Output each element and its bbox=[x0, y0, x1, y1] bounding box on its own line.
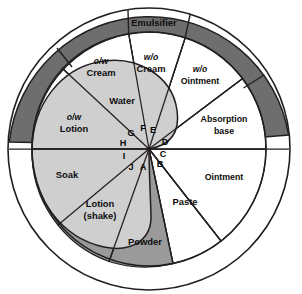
wheel-diagram-svg: Emulsifier o/w Cream w/o Cream w/o Ointm… bbox=[0, 0, 302, 294]
label-wo-ointment-prefix: w/o bbox=[193, 64, 207, 74]
label-ointment: Ointment bbox=[205, 172, 244, 182]
label-wo-ointment: Ointment bbox=[181, 76, 220, 86]
band-divider-left bbox=[128, 10, 129, 34]
label-wo-cream: Cream bbox=[136, 63, 165, 74]
label-water: Water bbox=[109, 95, 135, 106]
label-ow-cream: Cream bbox=[86, 67, 115, 78]
key-letter-I: I bbox=[123, 151, 126, 161]
label-powder: Powder bbox=[128, 236, 162, 247]
label-wo-cream-prefix: w/o bbox=[144, 52, 158, 62]
dermatologic-vehicle-wheel-figure: Emulsifier o/w Cream w/o Cream w/o Ointm… bbox=[0, 0, 302, 294]
label-ow-cream-prefix: o/w bbox=[94, 56, 110, 66]
key-letter-F: F bbox=[140, 123, 146, 133]
key-letter-A: A bbox=[140, 162, 147, 172]
label-absorption-base-line1: Absorption bbox=[201, 114, 248, 124]
key-letter-B: B bbox=[157, 159, 164, 169]
label-ow-lotion: Lotion bbox=[60, 123, 89, 134]
label-emulsifier: Emulsifier bbox=[131, 17, 177, 28]
label-soak: Soak bbox=[56, 169, 79, 180]
key-letter-G: G bbox=[127, 128, 134, 138]
key-letter-D: D bbox=[162, 137, 169, 147]
key-letter-E: E bbox=[150, 125, 156, 135]
label-lotion-shake-line2: (shake) bbox=[84, 210, 117, 221]
key-letter-C: C bbox=[160, 149, 167, 159]
key-letter-H: H bbox=[120, 138, 127, 148]
label-absorption-base-line2: base bbox=[214, 126, 234, 136]
label-paste: Paste bbox=[172, 196, 197, 207]
label-lotion-shake-line1: Lotion bbox=[86, 198, 115, 209]
label-ow-lotion-prefix: o/w bbox=[67, 112, 83, 122]
key-letter-J: J bbox=[128, 162, 133, 172]
